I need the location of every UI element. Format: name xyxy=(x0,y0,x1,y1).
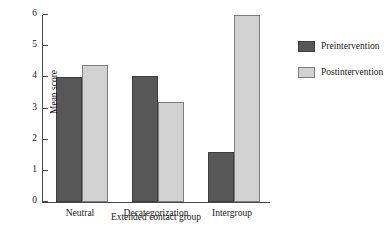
chart-legend: PreinterventionPostintervention xyxy=(298,40,389,92)
y-axis-tick: 6 xyxy=(42,14,48,15)
y-axis-tick: 0 xyxy=(42,201,48,202)
y-axis-tick: 4 xyxy=(42,76,48,77)
legend-item-label: Postintervention xyxy=(321,66,383,79)
y-axis-title: Mean score xyxy=(49,57,59,127)
bar-group xyxy=(132,15,184,202)
y-axis-tick-mark xyxy=(43,201,48,202)
bar xyxy=(208,152,234,202)
y-axis-tick: 5 xyxy=(42,45,48,46)
y-axis-tick-label: 0 xyxy=(32,194,37,207)
y-axis-tick: 2 xyxy=(42,139,48,140)
y-axis-tick-mark xyxy=(43,14,48,15)
bar-group xyxy=(56,15,108,202)
y-axis-tick-label: 3 xyxy=(32,101,37,114)
y-axis-line xyxy=(42,15,43,203)
y-axis-tick-mark xyxy=(43,45,48,46)
x-axis-title: Extended contact group xyxy=(42,212,270,222)
plot-area: 0123456 NeutralDecategorizationIntergrou… xyxy=(42,15,270,203)
bar xyxy=(158,102,184,202)
y-axis-tick-label: 4 xyxy=(32,69,37,82)
y-axis-tick-label: 1 xyxy=(32,163,37,176)
y-axis-tick-mark xyxy=(43,108,48,109)
bar-group xyxy=(208,15,260,202)
legend-item: Postintervention xyxy=(298,66,389,80)
bar-chart-figure: 0123456 NeutralDecategorizationIntergrou… xyxy=(0,0,389,240)
y-axis-tick: 3 xyxy=(42,108,48,109)
y-axis-tick-label: 5 xyxy=(32,38,37,51)
bar xyxy=(234,15,260,202)
bar xyxy=(82,65,108,202)
legend-item-label: Preintervention xyxy=(321,40,380,53)
x-axis-line xyxy=(42,202,270,203)
bar xyxy=(56,77,82,202)
y-axis-tick-mark xyxy=(43,170,48,171)
bar xyxy=(132,76,158,202)
y-axis-tick: 1 xyxy=(42,170,48,171)
y-axis-tick-label: 6 xyxy=(32,7,37,20)
y-axis-tick-mark xyxy=(43,76,48,77)
y-axis-tick-label: 2 xyxy=(32,132,37,145)
legend-item: Preintervention xyxy=(298,40,389,54)
legend-color-swatch xyxy=(298,67,315,78)
legend-color-swatch xyxy=(298,41,315,52)
y-axis-tick-mark xyxy=(43,139,48,140)
